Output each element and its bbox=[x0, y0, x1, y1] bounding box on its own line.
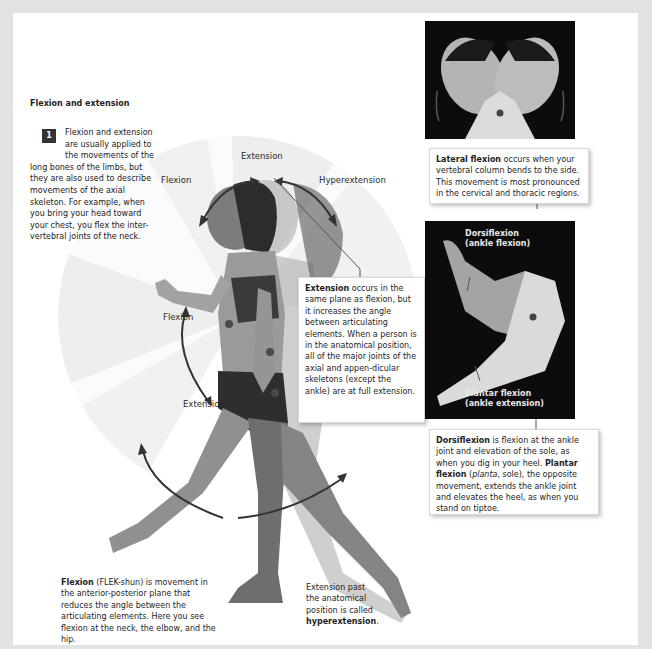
hyperextension-term: hyperextension bbox=[306, 617, 376, 626]
lateral-flexion-callout: Lateral flexion occurs when your vertebr… bbox=[429, 148, 589, 204]
dorsiflexion-term: Dorsiflexion bbox=[436, 436, 490, 445]
lateral-flexion-photo bbox=[425, 21, 575, 139]
planta-term: planta bbox=[472, 470, 497, 479]
dorsiflexion-photo-label: Dorsiflexion (ankle flexion) bbox=[465, 229, 530, 249]
flexion-term: Flexion bbox=[61, 578, 94, 587]
extension-text: occurs in the same plane as flexion, but… bbox=[305, 284, 417, 396]
lateral-flexion-heads-image bbox=[425, 21, 575, 139]
textbook-page: Flexion and extension 1 Flexion and exte… bbox=[13, 13, 638, 645]
hyperextension-caption: Extension past the anatomical position i… bbox=[306, 582, 378, 628]
extension-callout: Extension occurs in the same plane as fl… bbox=[298, 277, 425, 423]
label-neck-extension: Extension bbox=[241, 151, 283, 161]
label-neck-flexion: Flexion bbox=[161, 175, 191, 185]
lateral-flexion-term: Lateral flexion bbox=[436, 155, 501, 164]
flexion-text: (FLEK-shun) is movement in the anterior-… bbox=[61, 578, 216, 644]
plantar-flexion-photo-label: Plantar flexion (ankle extension) bbox=[465, 389, 544, 409]
ankle-photo: Dorsiflexion (ankle flexion) Plantar fle… bbox=[425, 221, 575, 419]
label-elbow-flexion: Flexion bbox=[163, 312, 193, 322]
label-elbow-extension: Extension bbox=[183, 399, 225, 409]
label-neck-hyperextension: Hyperextension bbox=[319, 175, 386, 185]
extension-term: Extension bbox=[305, 284, 349, 293]
dorsiflexion-callout: Dorsiflexion is flexion at the ankle joi… bbox=[429, 429, 599, 515]
flexion-caption: Flexion (FLEK-shun) is movement in the a… bbox=[61, 577, 221, 645]
